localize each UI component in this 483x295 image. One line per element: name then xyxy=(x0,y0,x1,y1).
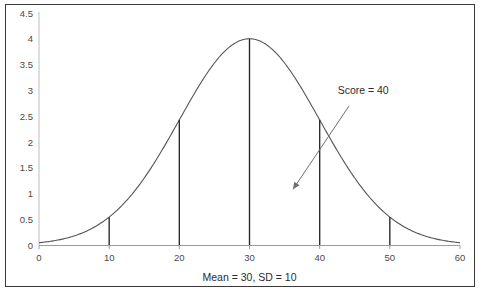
x-tick-label: 30 xyxy=(244,252,255,263)
x-tick-label: 50 xyxy=(385,252,396,263)
score-annotation-arrowhead xyxy=(293,182,300,190)
y-tick-label: 0.5 xyxy=(20,214,33,225)
y-tick-label: 2.5 xyxy=(20,111,33,122)
y-tick-label: 1 xyxy=(28,188,33,199)
y-tick-label: 3.5 xyxy=(20,59,33,70)
x-tick-label: 0 xyxy=(36,252,41,263)
x-tick-label: 20 xyxy=(174,252,185,263)
score-annotation-arrow xyxy=(293,106,349,190)
normal-distribution-chart: 4.5 4 3.5 3 2.5 2 1.5 1 0.5 0 0 10 20 30… xyxy=(0,0,483,295)
y-tick-label: 1.5 xyxy=(20,162,33,173)
y-tick-label: 3 xyxy=(28,85,33,96)
y-tick-label: 4.5 xyxy=(20,8,33,19)
x-tick-label: 10 xyxy=(104,252,115,263)
x-tick-label: 40 xyxy=(314,252,325,263)
x-axis-title: Mean = 30, SD = 10 xyxy=(203,271,297,283)
y-tick-label: 2 xyxy=(28,137,33,148)
score-annotation-label: Score = 40 xyxy=(338,84,389,96)
chart-figure: 4.5 4 3.5 3 2.5 2 1.5 1 0.5 0 0 10 20 30… xyxy=(0,0,483,295)
x-tick-label: 60 xyxy=(455,252,466,263)
y-tick-label: 4 xyxy=(28,33,33,44)
y-tick-label: 0 xyxy=(28,240,33,251)
